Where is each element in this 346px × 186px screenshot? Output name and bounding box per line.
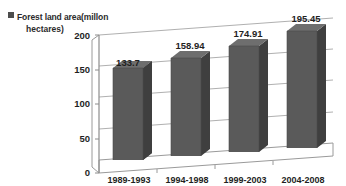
bar-1999-2003 [229,39,268,152]
y-tick-label-150: 150 [74,64,90,75]
chart-container: Forest land area(millon hectares) [0,0,346,186]
data-label-1: 133.7 [116,57,140,68]
y-axis-depth-edge [92,35,99,40]
bar-2004-2008 [287,24,326,148]
x-label-2: 1994-1998 [165,175,208,185]
y-tick-label-50: 50 [79,133,90,144]
bar-1989-1993 [113,61,152,160]
data-label-4: 195.45 [291,13,321,24]
x-label-1: 1989-1993 [107,175,150,185]
x-axis-labels: 1989-1993 1994-1998 1999-2003 2004-2008 [107,175,324,185]
bar-1-right-face [143,61,152,160]
bar-2-front [171,58,201,156]
x-label-4: 2004-2008 [281,175,324,185]
bar-4-right-face [317,24,326,148]
y-axis [92,35,99,173]
y-axis-bottom-edge [92,167,99,173]
data-label-3: 174.91 [233,28,263,39]
bar-1994-1998 [171,51,210,156]
y-tick-label-200: 200 [74,30,90,41]
bar-2-right-face [201,51,210,156]
x-label-3: 1999-2003 [223,175,266,185]
bar-1-front [113,68,143,160]
y-axis-labels: 0 50 100 150 200 [74,30,90,178]
bar-3-right-face [259,39,268,152]
chart-plot-area: 0 50 100 150 200 [0,0,346,186]
y-tick-label-0: 0 [85,167,90,178]
bar-3-front [229,46,259,152]
bar-4-front [287,31,317,148]
data-label-2: 158.94 [175,40,205,51]
y-tick-label-100: 100 [74,98,90,109]
